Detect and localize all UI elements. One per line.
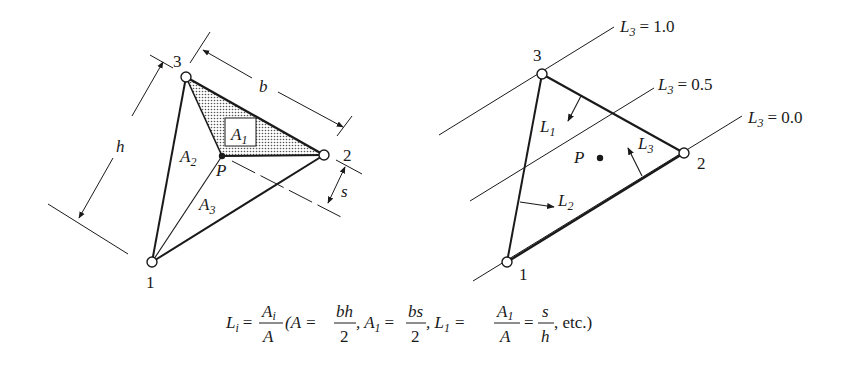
right-triangle-diagram: 1 2 3 P L1 L2 L3 L3= 1.0 L3= 0.5 L3= 0.0	[439, 17, 803, 284]
diagram-canvas: 1 2 3 P b h s A1 A2 A3 1 2 3 P L1 L2	[0, 0, 861, 374]
coord-l2-label: L2	[557, 191, 573, 213]
frac3-num: bs	[408, 302, 424, 321]
formula-part2: , A1=	[356, 313, 394, 335]
ext-line-b-3	[190, 32, 210, 63]
dim-line-h-1	[132, 62, 163, 116]
node-2-label: 2	[343, 146, 352, 165]
dim-line-b-2	[278, 92, 343, 127]
node-2	[319, 150, 329, 160]
level-label-0: L3= 0.0	[747, 108, 803, 130]
point-p	[219, 153, 225, 159]
frac2-num: bh	[336, 302, 353, 321]
arrow-l2	[520, 202, 554, 207]
level-line-l3-05	[470, 88, 654, 201]
edge-1-3	[507, 74, 542, 262]
node-3	[537, 69, 547, 79]
level-label-05: L3= 0.5	[657, 75, 713, 97]
formula-part1: (A =	[285, 313, 316, 332]
node-1-label: 1	[146, 273, 155, 292]
frac1-num: Ai	[261, 302, 276, 323]
edge-1-2	[152, 155, 324, 262]
line-p-2	[222, 155, 324, 156]
area-a3-label: A3	[198, 195, 215, 217]
point-p-label: P	[215, 161, 226, 180]
ext-line-b-2	[337, 116, 352, 136]
node-2-label: 2	[697, 154, 706, 173]
level-line-l3-0	[473, 116, 742, 281]
node-3-label: 3	[173, 52, 182, 71]
dim-h-label: h	[116, 137, 125, 156]
formula-lhs: Li=	[225, 313, 252, 335]
arrow-l1	[568, 96, 581, 121]
node-1	[147, 257, 157, 267]
node-3-label: 3	[533, 46, 542, 65]
frac4-num: A1	[496, 302, 513, 323]
frac3-den: 2	[411, 327, 420, 346]
ext-line-h-3	[150, 55, 173, 68]
coord-l1-label: L1	[539, 117, 555, 139]
formula-part3: , L1=	[426, 313, 465, 335]
node-1-label: 1	[519, 265, 528, 284]
edge-1-3	[152, 77, 186, 262]
level-label-1: L3= 1.0	[619, 17, 675, 39]
dim-s-label: s	[341, 182, 348, 201]
left-triangle-diagram: 1 2 3 P b h s A1 A2 A3	[48, 32, 362, 292]
formula: Li= Ai A (A = bh 2 , A1= bs 2 , L1= A1 A…	[225, 302, 592, 346]
ext-line-s-p	[232, 161, 343, 218]
node-2	[679, 148, 689, 158]
level-line-l3-1	[439, 27, 614, 135]
dim-line-b-1	[203, 50, 252, 78]
frac2-den: 2	[340, 327, 349, 346]
area-a2-label: A2	[179, 147, 196, 169]
point-p	[597, 155, 603, 161]
node-3	[181, 72, 191, 82]
node-1	[502, 257, 512, 267]
edge-1-2	[507, 153, 684, 262]
frac1-den: A	[262, 327, 274, 346]
frac5-den: h	[541, 327, 550, 346]
dim-line-h-2	[79, 158, 113, 218]
formula-eq: =	[524, 313, 534, 332]
dim-b-label: b	[259, 77, 268, 96]
point-p-label: P	[573, 148, 584, 167]
formula-tail: , etc.)	[554, 313, 592, 332]
coord-l3-label: L3	[637, 134, 653, 156]
frac5-num: s	[542, 302, 549, 321]
frac4-den: A	[499, 327, 511, 346]
ext-line-h-1	[48, 204, 128, 254]
